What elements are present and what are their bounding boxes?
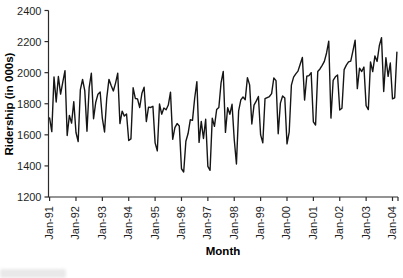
y-tick-label: 1200: [17, 191, 41, 203]
x-tick-label: Jan-02: [333, 206, 345, 240]
y-tick-label: 1800: [17, 98, 41, 110]
x-tick-label: Jan-93: [96, 206, 108, 240]
x-tick-label: Jan-95: [149, 206, 161, 240]
x-tick-label: Jan-03: [360, 206, 372, 240]
ridership-line-chart: 2400220020001800160014001200Jan-91Jan-92…: [0, 0, 403, 278]
ridership-series-line: [50, 38, 397, 172]
x-tick-label: Jan-97: [201, 206, 213, 240]
y-tick-label: 2400: [17, 5, 41, 17]
x-tick-label: Jan-96: [175, 206, 187, 240]
chart-canvas: 2400220020001800160014001200Jan-91Jan-92…: [0, 0, 403, 278]
watermark-smudge: [0, 269, 66, 278]
x-tick-label: Jan-92: [69, 206, 81, 240]
x-tick-label: Jan-00: [280, 206, 292, 240]
y-tick-label: 1400: [17, 160, 41, 172]
x-tick-label: Jan-94: [122, 206, 134, 240]
axis-ticks: 2400220020001800160014001200Jan-91Jan-92…: [17, 5, 398, 240]
y-tick-label: 2200: [17, 36, 41, 48]
y-axis-title: Ridership (in 000s): [3, 52, 15, 155]
x-tick-label: Jan-99: [254, 206, 266, 240]
x-axis-title: Month: [206, 245, 240, 257]
x-tick-label: Jan-91: [43, 206, 55, 240]
x-tick-label: Jan-01: [307, 206, 319, 240]
x-tick-label: Jan-04: [386, 206, 398, 240]
x-tick-label: Jan-98: [228, 206, 240, 240]
y-tick-label: 1600: [17, 129, 41, 141]
y-tick-label: 2000: [17, 67, 41, 79]
